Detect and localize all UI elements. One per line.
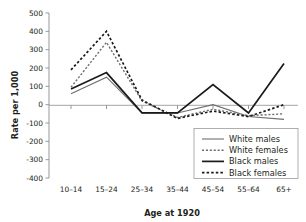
x-tick-label: 45–54 [202, 185, 225, 194]
chart-container: Rate per 1,000 Age at 1920 5004003002001… [0, 0, 306, 222]
y-tick-label: 300 [29, 45, 43, 54]
legend-label-black-females: Black females [229, 168, 286, 178]
y-tick-label: 200 [29, 64, 43, 73]
chart-legend: White malesWhite femalesBlack malesBlack… [194, 129, 298, 179]
x-tick-label: 35–44 [166, 185, 189, 194]
y-tick-label: -400 [26, 174, 43, 183]
y-tick-label: 0 [38, 100, 43, 109]
y-tick-label: -300 [26, 155, 43, 164]
y-tick-label: 100 [29, 82, 43, 91]
x-tick-label: 15–24 [95, 185, 118, 194]
y-tick-label: -100 [26, 119, 43, 128]
legend-label-white-females: White females [229, 145, 288, 155]
y-tick-label: -200 [26, 137, 43, 146]
x-tick-label: 55–64 [237, 185, 260, 194]
y-axis-ticks: 5004003002001000-100-200-300-400 [26, 9, 49, 183]
x-tick-label: 65+ [276, 185, 292, 194]
line-chart: Rate per 1,000 Age at 1920 5004003002001… [0, 0, 306, 222]
x-axis-labels: 10–1415–2425–3435–4445–5455–6465+ [60, 185, 292, 194]
legend-label-black-males: Black males [229, 156, 278, 166]
x-tick-label: 25–34 [131, 185, 154, 194]
x-tick-label: 10–14 [60, 185, 83, 194]
x-axis-title: Age at 1920 [144, 208, 200, 218]
legend-label-white-males: White males [229, 134, 280, 144]
y-tick-label: 400 [29, 27, 43, 36]
y-axis-title: Rate per 1,000 [10, 71, 20, 140]
y-tick-label: 500 [29, 9, 43, 18]
